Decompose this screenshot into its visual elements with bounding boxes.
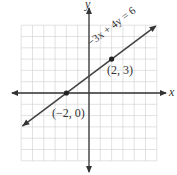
y-axis-label: y — [85, 0, 90, 12]
data-point — [64, 90, 69, 95]
point-label-neg2-0: (−2, 0) — [52, 106, 85, 121]
x-axis-label: x — [169, 85, 174, 100]
data-point — [109, 57, 114, 62]
point-label-2-3: (2, 3) — [107, 63, 133, 78]
coordinate-plane — [0, 0, 177, 175]
